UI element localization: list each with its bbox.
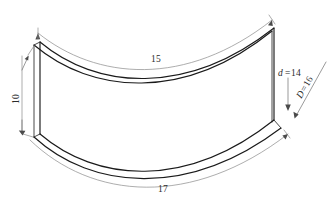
inner-diameter-value: 14: [291, 68, 301, 78]
left-face-bottom-edge: [34, 134, 40, 137]
top-length-label: 15: [151, 54, 161, 64]
height-dimension-extension-top: [28, 46, 34, 55]
front-face-fill: [40, 28, 274, 170]
bottom-length-label: 17: [158, 184, 168, 194]
bottom-dimension-arrowhead-right: [282, 134, 288, 139]
height-dimension-arrowhead-bottom: [19, 130, 26, 135]
height-label: 10: [11, 94, 21, 104]
bottom-right-closing-edge: [274, 120, 281, 128]
inner-diameter-equals: =: [285, 68, 291, 78]
inner-diameter-arrowhead: [285, 104, 291, 111]
inner-diameter-label-group: d = 14: [278, 68, 301, 78]
technical-drawing-figure: 15 10: [0, 0, 335, 205]
height-dimension-extension-bottom: [23, 134, 33, 137]
height-dimension-arrowhead-top: [25, 56, 29, 61]
inner-diameter-symbol: d: [278, 68, 283, 78]
left-face-top-edge: [34, 42, 40, 45]
drawing-canvas: 15 10: [0, 0, 335, 205]
